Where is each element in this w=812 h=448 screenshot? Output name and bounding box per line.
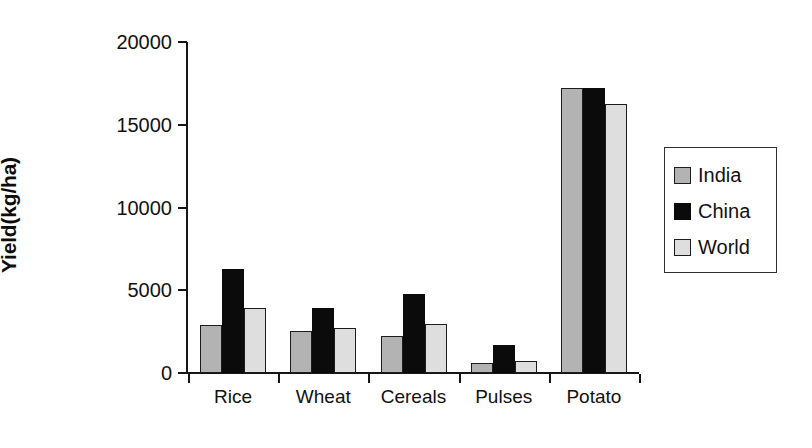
bar-china-wheat <box>312 308 334 373</box>
x-tick-mark <box>459 374 461 383</box>
x-tick-mark <box>549 374 551 383</box>
bar-world-potato <box>605 104 627 373</box>
bar-world-cereals <box>425 324 447 373</box>
bar-india-cereals <box>381 336 403 373</box>
bar-india-potato <box>561 88 583 373</box>
bar-china-potato <box>583 88 605 373</box>
legend-swatch-china <box>674 203 691 220</box>
bar-india-rice <box>200 325 222 373</box>
bar-india-wheat <box>290 331 312 373</box>
legend-label: India <box>698 165 741 185</box>
bar-india-pulses <box>471 363 493 373</box>
y-tick-mark <box>178 207 187 209</box>
y-tick-label: 0 <box>52 362 172 385</box>
x-tick-mark <box>368 374 370 383</box>
plot-area <box>188 42 639 373</box>
x-tick-mark <box>639 374 641 383</box>
legend-label: World <box>698 237 750 257</box>
chart-legend: IndiaChinaWorld <box>664 147 777 273</box>
bar-china-pulses <box>493 345 515 373</box>
y-tick-mark <box>178 289 187 291</box>
y-tick-mark <box>178 124 187 126</box>
x-tick-label-pulses: Pulses <box>475 386 532 408</box>
y-tick-mark <box>178 372 187 374</box>
x-tick-label-cereals: Cereals <box>381 386 446 408</box>
y-tick-label-group: 05000100001500020000 <box>52 0 172 448</box>
bar-world-wheat <box>334 328 356 373</box>
x-tick-mark <box>278 374 280 383</box>
legend-label: China <box>698 201 750 221</box>
y-tick-label: 20000 <box>52 31 172 54</box>
legend-item-india: India <box>674 157 776 193</box>
y-tick-label: 15000 <box>52 113 172 136</box>
bar-world-rice <box>244 308 266 373</box>
x-tick-mark <box>188 374 190 383</box>
y-tick-label: 10000 <box>52 196 172 219</box>
x-tick-label-rice: Rice <box>214 386 252 408</box>
y-tick-mark <box>178 41 187 43</box>
legend-swatch-world <box>674 239 691 256</box>
y-axis-title: Yield(kg/ha) <box>0 120 21 310</box>
legend-item-world: World <box>674 229 776 265</box>
x-tick-label-potato: Potato <box>566 386 621 408</box>
x-tick-label-wheat: Wheat <box>296 386 351 408</box>
bar-chart-figure: Yield(kg/ha) 05000100001500020000 IndiaC… <box>0 0 812 448</box>
bar-china-cereals <box>403 294 425 373</box>
legend-item-china: China <box>674 193 776 229</box>
bar-world-pulses <box>515 361 537 373</box>
bar-china-rice <box>222 269 244 373</box>
y-tick-label: 5000 <box>52 279 172 302</box>
legend-swatch-india <box>674 167 691 184</box>
